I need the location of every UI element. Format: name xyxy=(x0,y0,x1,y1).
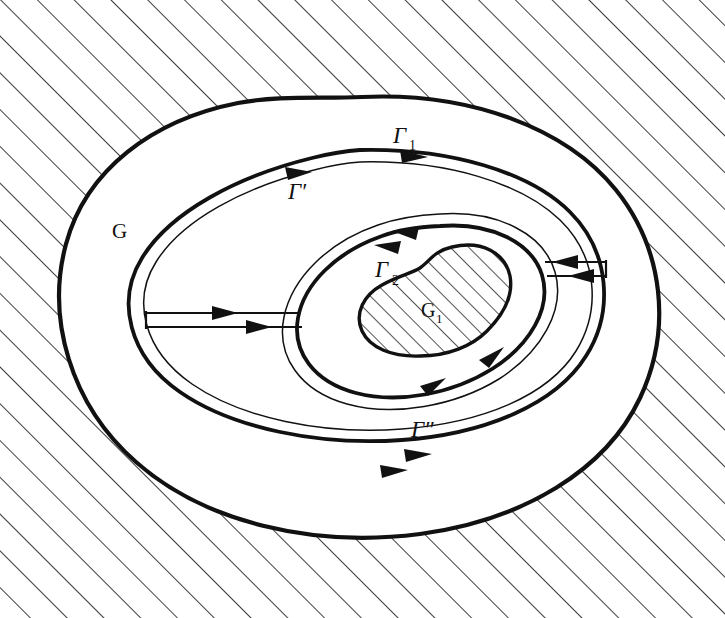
svg-text:2: 2 xyxy=(392,273,399,288)
figure-canvas: G Γ 1 Γ′ Γ 2 G 1 Γ″ xyxy=(0,0,725,618)
svg-text:1: 1 xyxy=(409,138,416,153)
svg-text:G: G xyxy=(421,299,435,321)
svg-text:Γ: Γ xyxy=(392,123,407,148)
svg-text:1: 1 xyxy=(436,311,443,326)
label-G: G xyxy=(112,219,127,243)
svg-text:Γ: Γ xyxy=(374,257,389,282)
label-gamma-double-prime: Γ″ xyxy=(410,417,434,442)
diagram-svg: G Γ 1 Γ′ Γ 2 G 1 Γ″ xyxy=(0,0,725,618)
label-gamma-prime: Γ′ xyxy=(287,179,307,204)
